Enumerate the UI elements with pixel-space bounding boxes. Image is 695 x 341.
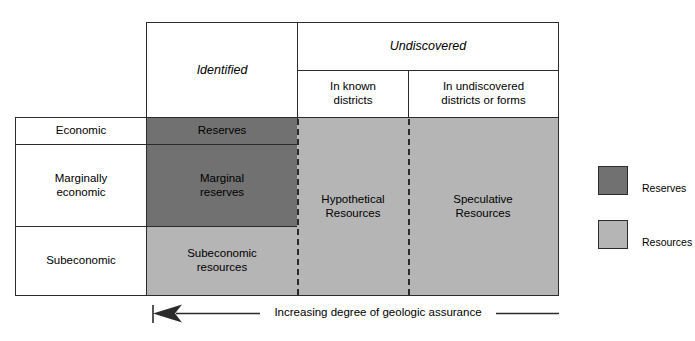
header-in-undiscovered-districts-label: In undiscovered districts or forms bbox=[441, 80, 525, 107]
cell-speculative-resources: Speculative Resources bbox=[408, 117, 559, 296]
cell-reserves: Reserves bbox=[146, 117, 298, 145]
cell-hypothetical-resources: Hypothetical Resources bbox=[297, 117, 409, 296]
header-undiscovered: Undiscovered bbox=[297, 22, 559, 71]
header-identified: Identified bbox=[146, 22, 298, 118]
cell-subeconomic-resources-label: Subeconomic resources bbox=[187, 247, 257, 274]
cell-marginal-reserves-label: Marginal reserves bbox=[200, 172, 244, 199]
header-in-known-districts-label: In known districts bbox=[330, 80, 376, 107]
legend: Reserves Resources bbox=[598, 165, 693, 257]
divider-known-undiscovered-districts bbox=[408, 119, 410, 295]
geologic-assurance-axis: Increasing degree of geologic assurance bbox=[150, 303, 559, 325]
row-label-marginally-economic: Marginally economic bbox=[15, 144, 147, 227]
resource-classification-diagram: Identified Undiscovered In known distric… bbox=[0, 0, 695, 341]
header-in-known-districts: In known districts bbox=[297, 70, 409, 118]
cell-speculative-resources-label: Speculative Resources bbox=[453, 193, 512, 220]
row-label-subeconomic: Subeconomic bbox=[15, 226, 147, 296]
legend-item-resources: Resources bbox=[598, 219, 692, 249]
row-label-subeconomic-text: Subeconomic bbox=[46, 254, 116, 268]
row-label-economic-text: Economic bbox=[56, 124, 107, 138]
divider-identified-top-stub bbox=[297, 117, 298, 119]
cell-subeconomic-resources: Subeconomic resources bbox=[146, 226, 298, 296]
divider-identified-undiscovered bbox=[297, 119, 299, 295]
header-identified-label: Identified bbox=[197, 63, 248, 78]
geologic-assurance-label: Increasing degree of geologic assurance bbox=[260, 305, 496, 319]
row-label-economic: Economic bbox=[15, 117, 147, 145]
header-undiscovered-label: Undiscovered bbox=[390, 39, 466, 54]
cell-marginal-reserves: Marginal reserves bbox=[146, 144, 298, 227]
legend-item-reserves: Reserves bbox=[598, 165, 686, 195]
legend-swatch-resources-icon bbox=[598, 220, 628, 249]
row-label-marginally-economic-text: Marginally economic bbox=[55, 172, 107, 199]
legend-label-reserves: Reserves bbox=[642, 182, 686, 195]
legend-label-resources: Resources bbox=[642, 236, 692, 249]
cell-hypothetical-resources-label: Hypothetical Resources bbox=[321, 193, 384, 220]
cell-reserves-label: Reserves bbox=[198, 124, 247, 138]
legend-swatch-reserves-icon bbox=[598, 166, 628, 195]
header-in-undiscovered-districts: In undiscovered districts or forms bbox=[408, 70, 559, 118]
